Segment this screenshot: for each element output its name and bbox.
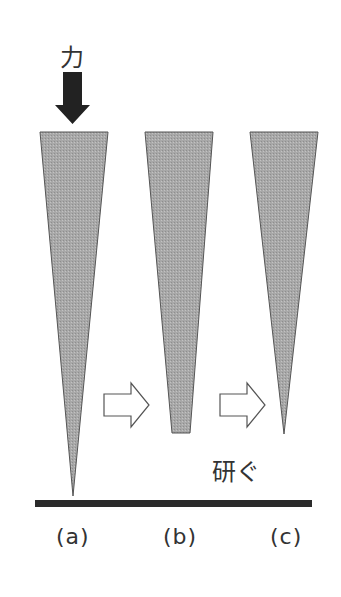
wedge-a bbox=[40, 132, 108, 496]
stage-label-b: (b) bbox=[163, 524, 197, 549]
wedge-b bbox=[145, 132, 213, 433]
grind-label: 研ぐ bbox=[212, 452, 260, 487]
stage-label-a: (a) bbox=[56, 524, 90, 549]
force-label: 力 bbox=[60, 38, 84, 73]
diagram-canvas bbox=[0, 0, 341, 597]
right-arrow-icon bbox=[104, 383, 149, 427]
wedge-c bbox=[250, 132, 318, 434]
right-arrow-icon bbox=[220, 383, 265, 427]
grinding-surface bbox=[35, 500, 312, 507]
force-arrow-icon bbox=[55, 72, 90, 124]
stage-label-c: (c) bbox=[270, 524, 302, 549]
